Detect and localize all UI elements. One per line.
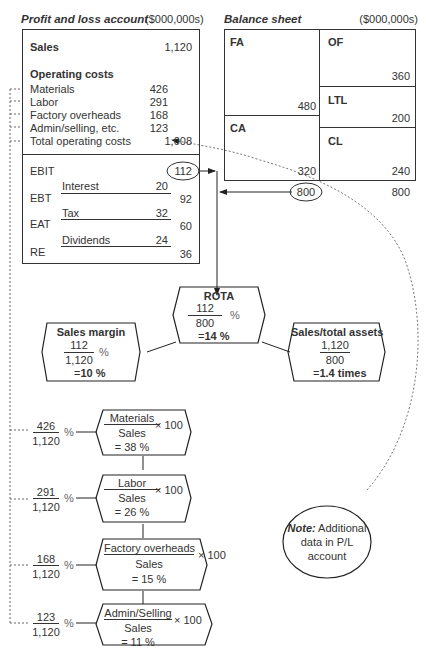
margin-pct: %	[99, 346, 109, 358]
cost-ratio-multiplier: × 100	[155, 484, 183, 496]
factory-value: 168	[140, 109, 168, 121]
interest-value: 20	[146, 180, 168, 192]
rota-title: ROTA	[180, 290, 258, 302]
cost-ratio-label: Labor	[104, 477, 160, 489]
re-value: 36	[170, 248, 192, 260]
ebt-label: EBT	[30, 192, 51, 204]
cost-ratio-numerator: 168	[33, 553, 59, 565]
materials-value: 426	[140, 83, 168, 95]
turnover-result: 1.4 times	[319, 367, 366, 379]
of-value: 360	[374, 70, 410, 82]
bs-title: Balance sheet	[224, 13, 301, 25]
cl-label: CL	[328, 135, 343, 147]
cost-ratio-numerator: 426	[33, 420, 59, 432]
ebit-value: 112	[170, 165, 192, 177]
pl-title: Profit and loss account	[21, 13, 148, 25]
cost-ratio-result: = 38 %	[104, 441, 160, 453]
rota-result: 14 %	[204, 330, 229, 342]
tax-value: 32	[146, 207, 168, 219]
eat-value: 60	[170, 220, 192, 232]
cost-ratio-label: Materials	[104, 412, 160, 424]
cost-ratio-base: Sales	[104, 622, 172, 634]
margin-denominator: 1,120	[64, 354, 94, 366]
note-text1: Additional	[316, 522, 367, 534]
dividends-label: Dividends	[62, 234, 110, 246]
total-liabilities: 800	[374, 186, 410, 198]
cost-ratio-result: = 15 %	[104, 573, 194, 585]
cost-ratio-pct: %	[64, 426, 74, 438]
cost-ratio-result: = 11 %	[104, 636, 172, 648]
cost-ratio-result: = 26 %	[104, 506, 160, 518]
cl-value: 240	[374, 165, 410, 177]
margin-result: 10 %	[80, 367, 105, 379]
turnover-title: Sales/total assets	[291, 326, 383, 338]
eat-label: EAT	[30, 218, 51, 230]
re-label: RE	[30, 246, 45, 258]
cost-ratio-base: Sales	[104, 558, 194, 570]
margin-title: Sales margin	[47, 326, 135, 338]
note-text2: data in P/L	[284, 536, 370, 548]
total-value: 1,008	[150, 135, 192, 147]
rota-pct: %	[230, 309, 240, 321]
note-text3: account	[284, 550, 370, 562]
cost-ratio-multiplier: × 100	[174, 614, 202, 626]
interest-label: Interest	[62, 180, 99, 192]
turnover-denominator: 800	[320, 354, 350, 366]
total-assets: 800	[290, 186, 322, 198]
cost-ratio-pct: %	[64, 559, 74, 571]
fa-label: FA	[230, 36, 244, 48]
cost-ratio-denominator: 1,120	[31, 568, 61, 580]
rota-denominator: 800	[188, 317, 222, 329]
cost-ratio-pct: %	[64, 617, 74, 629]
note-bold: Note:	[288, 522, 316, 534]
sales-value: 1,120	[150, 41, 192, 53]
cost-ratio-base: Sales	[104, 427, 160, 439]
cost-ratio-denominator: 1,120	[31, 435, 61, 447]
ebit-label: EBIT	[30, 165, 54, 177]
cost-ratio-numerator: 291	[33, 486, 59, 498]
labor-label: Labor	[30, 96, 58, 108]
admin-label: Admin/selling, etc.	[30, 122, 119, 134]
cost-ratio-denominator: 1,120	[31, 626, 61, 638]
cost-ratio-pct: %	[64, 492, 74, 504]
sales-label: Sales	[30, 41, 59, 53]
cost-ratio-denominator: 1,120	[31, 501, 61, 513]
of-label: OF	[328, 36, 343, 48]
fa-value: 480	[280, 100, 316, 112]
cost-ratio-numerator: 123	[33, 611, 59, 623]
cost-ratio-multiplier: × 100	[155, 419, 183, 431]
dividends-value: 24	[146, 234, 168, 246]
ca-label: CA	[230, 122, 246, 134]
ltl-label: LTL	[328, 94, 347, 106]
cost-ratio-base: Sales	[104, 492, 160, 504]
margin-numerator: 112	[64, 339, 94, 351]
cost-ratio-multiplier: × 100	[198, 549, 226, 561]
bs-unit: ($000,000s)	[340, 13, 418, 25]
tax-label: Tax	[62, 207, 79, 219]
ca-value: 320	[280, 165, 316, 177]
factory-label: Factory overheads	[30, 109, 121, 121]
opcosts-heading: Operating costs	[30, 68, 114, 80]
ebt-value: 92	[170, 193, 192, 205]
labor-value: 291	[140, 96, 168, 108]
cost-ratio-label: Factory overheads	[104, 542, 194, 554]
ltl-value: 200	[374, 112, 410, 124]
materials-label: Materials	[30, 83, 75, 95]
turnover-numerator: 1,120	[320, 339, 350, 351]
rota-numerator: 112	[188, 302, 222, 314]
pl-unit: ($000,000s)	[145, 13, 204, 25]
total-label: Total operating costs	[30, 135, 131, 147]
cost-ratio-label: Admin/Selling	[104, 607, 172, 619]
admin-value: 123	[140, 122, 168, 134]
